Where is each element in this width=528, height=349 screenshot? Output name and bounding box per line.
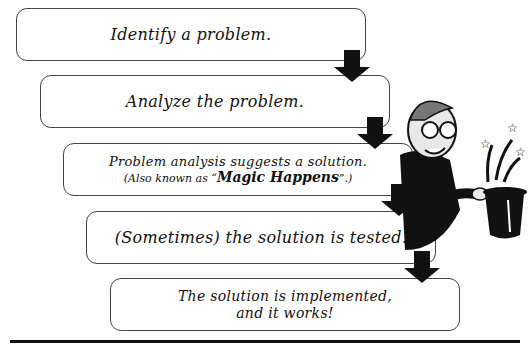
subtext-prefix: (Also known as “ [124,172,217,185]
step-5-box: The solution is implemented, and it work… [110,278,460,331]
magic-happens-emphasis: Magic Happens [217,169,339,185]
step-3-subtext: (Also known as “Magic Happens”.) [124,169,353,185]
step-3-box: Problem analysis suggests a solution. (A… [63,143,413,196]
step-5-text-line1: The solution is implemented, [178,288,392,305]
bottom-divider [10,340,520,343]
svg-text:☆: ☆ [480,137,491,151]
magician-illustration-icon: ☆ ☆ ☆ [380,90,528,270]
step-2-text: Analyze the problem. [126,92,304,111]
step-1-box: Identify a problem. [16,8,366,61]
svg-text:☆: ☆ [507,121,518,135]
step-4-text: (Sometimes) the solution is tested. [115,228,408,247]
svg-text:☆: ☆ [515,145,526,159]
step-2-box: Analyze the problem. [40,75,390,128]
step-3-text: Problem analysis suggests a solution. [109,154,367,169]
subtext-suffix: ”.) [339,172,352,185]
step-1-text: Identify a problem. [111,25,272,44]
step-5-text-line2: and it works! [236,305,334,322]
